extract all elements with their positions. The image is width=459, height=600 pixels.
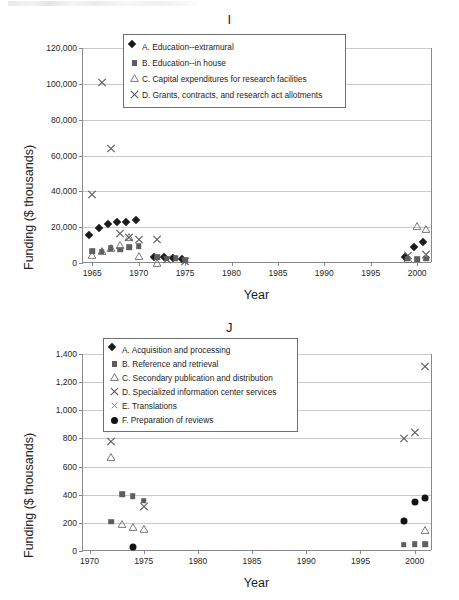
data-point (99, 249, 105, 255)
legend-label: D. Grants, contracts, and research act a… (142, 91, 322, 99)
marker-square-icon (108, 246, 114, 252)
x-tick-mark (415, 550, 416, 554)
y-gridline (83, 120, 431, 121)
marker-diamond-icon (131, 215, 139, 223)
marker-square-icon (154, 254, 160, 260)
y-tick-mark (79, 438, 83, 439)
marker-square-icon (89, 249, 95, 255)
legend-marker (129, 90, 140, 101)
marker-circle-icon (411, 498, 418, 505)
y-tick-label: 200 (63, 518, 77, 528)
marker-triangle-icon (110, 373, 119, 383)
x-tick-label: 1995 (361, 268, 380, 278)
data-point (412, 541, 418, 547)
data-point (125, 227, 134, 245)
data-point (125, 228, 134, 246)
marker-triangle-icon (116, 235, 125, 253)
marker-cross-icon (139, 497, 148, 515)
marker-diamond-icon (107, 343, 115, 351)
data-point (153, 230, 162, 248)
legend-label: A. Acquisition and processing (122, 346, 230, 354)
y-gridline (83, 523, 431, 524)
marker-cross-icon (110, 387, 119, 398)
marker-diamond-icon (113, 217, 121, 225)
marker-square-icon (99, 249, 105, 255)
x-tick-mark (324, 262, 325, 266)
legend-label: D. Specialized information center servic… (122, 388, 276, 396)
y-tick-label: 0 (72, 258, 77, 268)
marker-square-icon (424, 256, 430, 262)
x-tick-mark (144, 550, 145, 554)
data-point (423, 242, 429, 248)
data-point (411, 498, 418, 505)
marker-square-icon (132, 60, 138, 66)
data-point (107, 447, 116, 465)
x-tick-mark (417, 262, 418, 266)
marker-x-small-icon (111, 401, 118, 411)
data-point (401, 542, 407, 548)
x-tick-mark (185, 262, 186, 266)
y-tick-mark (79, 467, 83, 468)
x-tick-label: 1980 (222, 268, 241, 278)
legend-label: C. Secondary publication and distributio… (122, 374, 273, 382)
legend-item[interactable]: D. Grants, contracts, and research act a… (129, 87, 338, 103)
data-point (127, 245, 133, 251)
legend-item[interactable]: C. Secondary publication and distributio… (109, 371, 290, 385)
x-axis-label-J: Year (82, 576, 431, 590)
x-tick-label: 2000 (405, 556, 424, 566)
legend-item[interactable]: A. Education--extramural (129, 39, 338, 55)
marker-diamond-icon (122, 218, 130, 226)
marker-diamond-icon (85, 230, 93, 238)
x-tick-label: 1990 (315, 268, 334, 278)
legend-item[interactable]: D. Specialized information center servic… (109, 385, 290, 399)
plot-right-border (431, 354, 432, 550)
data-point (403, 249, 412, 267)
data-point (136, 244, 142, 250)
data-point (116, 235, 125, 253)
y-tick-mark (79, 156, 83, 157)
data-point (106, 139, 115, 157)
legend-item[interactable]: B. Education--in house (129, 55, 338, 71)
y-gridline (83, 438, 431, 439)
marker-diamond-icon (150, 253, 158, 261)
marker-diamond-icon (169, 253, 177, 261)
y-tick-label: 20,000 (51, 222, 77, 232)
y-tick-label: 400 (63, 490, 77, 500)
marker-square-icon (127, 245, 133, 251)
legend-item[interactable]: F. Preparation of reviews (109, 413, 290, 427)
y-tick-mark (79, 191, 83, 192)
legend-item[interactable]: E. Translations (109, 399, 290, 413)
marker-cross-icon (97, 73, 106, 91)
marker-triangle-icon (422, 219, 431, 237)
data-point (173, 258, 179, 264)
data-point (117, 247, 123, 253)
y-axis-label-I: Funding ($ thousands) (22, 145, 36, 270)
x-tick-mark (232, 262, 233, 266)
legend-item[interactable]: B. Reference and retrieval (109, 357, 290, 371)
chart-title-I: I (0, 12, 459, 27)
data-point (97, 73, 106, 91)
scanned-figure-page: I Funding ($ thousands) 020,00040,00060,… (0, 0, 459, 600)
y-tick-mark (79, 48, 83, 49)
marker-triangle-icon (130, 74, 139, 84)
marker-square-icon (401, 542, 407, 548)
y-tick-label: 800 (63, 433, 77, 443)
y-gridline (83, 495, 431, 496)
legend-marker (109, 347, 120, 353)
marker-diamond-icon (401, 253, 409, 261)
data-point (106, 238, 115, 256)
x-tick-label: 1985 (268, 268, 287, 278)
marker-circle-icon (129, 544, 136, 551)
y-tick-label: 60,000 (51, 151, 77, 161)
data-point (89, 249, 95, 255)
legend-item[interactable]: A. Acquisition and processing (109, 343, 290, 357)
marker-triangle-icon (128, 517, 137, 535)
marker-circle-icon (111, 417, 118, 424)
x-tick-mark (306, 550, 307, 554)
data-point (154, 257, 160, 263)
data-point (414, 247, 420, 253)
marker-square-icon (112, 361, 118, 367)
marker-cross-icon (125, 228, 134, 246)
legend-item[interactable]: C. Capital expenditures for research fac… (129, 71, 338, 87)
scan-artifact-strip (8, 1, 198, 6)
